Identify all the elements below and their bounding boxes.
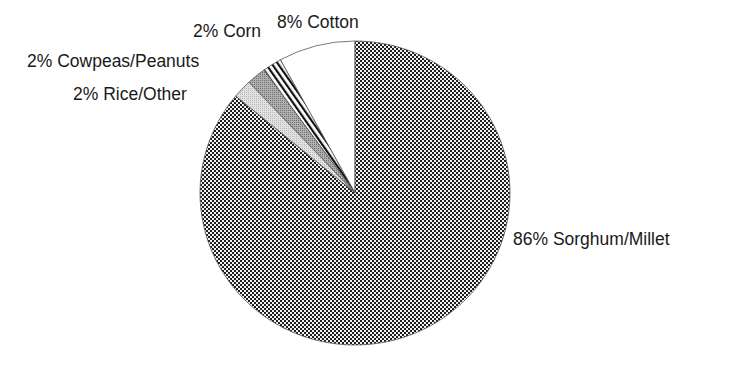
pie-chart: 8% Cotton 2% Corn 2% Cowpeas/Peanuts 2% … — [0, 0, 744, 365]
label-cowpeas-peanuts: 2% Cowpeas/Peanuts — [27, 51, 199, 71]
label-corn: 2% Corn — [193, 21, 261, 41]
pie-slices — [200, 41, 510, 345]
label-rice-other: 2% Rice/Other — [73, 84, 187, 104]
label-cotton: 8% Cotton — [277, 12, 359, 32]
label-sorghum-millet: 86% Sorghum/Millet — [513, 229, 670, 249]
